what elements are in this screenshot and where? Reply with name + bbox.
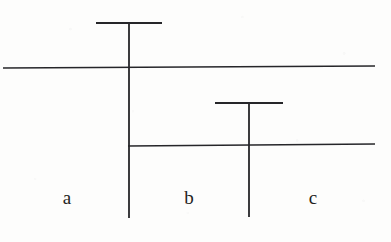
label-a: a: [63, 187, 72, 208]
diagram-canvas: a b c: [0, 0, 391, 242]
line-diagram-figure: a b c: [0, 0, 391, 242]
label-c: c: [309, 187, 317, 208]
label-b: b: [184, 187, 194, 208]
lower-horizontal-line: [128, 144, 375, 146]
upper-horizontal-line: [3, 66, 375, 68]
